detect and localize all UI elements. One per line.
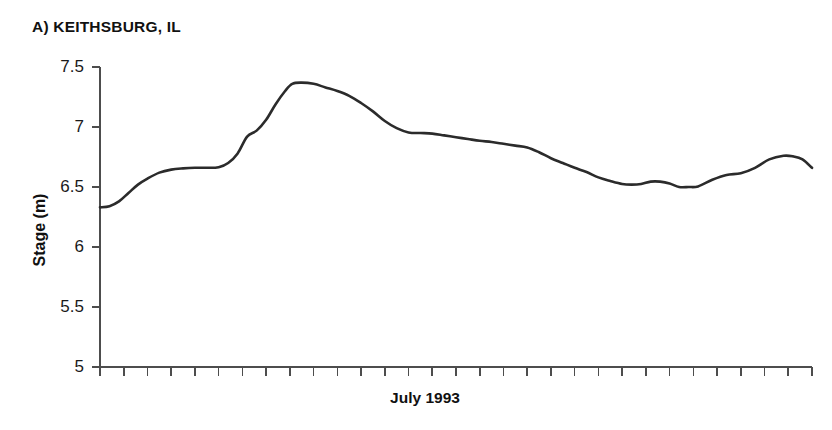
y-tick-marks [92,67,100,367]
y-tick-label: 5.5 [60,297,84,316]
y-tick-label: 5 [75,357,84,376]
data-series-group [100,83,812,208]
x-axis-group: July 1993 [100,367,812,406]
figure-panel: A) KEITHSBURG, IL 55.566.577.5 Stage (m)… [0,0,832,430]
y-axis-title: Stage (m) [31,194,48,267]
y-tick-label: 6.5 [60,177,84,196]
y-tick-label: 7.5 [60,57,84,76]
x-tick-marks [100,367,812,376]
y-axis-group: 55.566.577.5 Stage (m) [31,57,100,376]
y-tick-labels: 55.566.577.5 [60,57,84,376]
stage-line-series [100,83,812,208]
stage-hydrograph-chart: 55.566.577.5 Stage (m) July 1993 [0,0,832,430]
y-tick-label: 6 [75,237,84,256]
chart-svg: 55.566.577.5 Stage (m) July 1993 [0,0,832,430]
y-tick-label: 7 [75,117,84,136]
x-axis-title: July 1993 [390,389,460,406]
